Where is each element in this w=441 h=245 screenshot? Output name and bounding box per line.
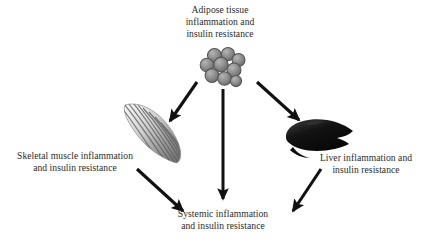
systemic-line-1: Systemic inflammation — [152, 208, 294, 220]
adipose-line-2: inflammation and — [155, 16, 285, 28]
adipose-line-3: insulin resistance — [155, 28, 285, 40]
liver-line-2: insulin resistance — [300, 164, 432, 176]
diagram-canvas: Adipose tissue inflammation and insulin … — [0, 0, 441, 245]
adipose-line-1: Adipose tissue — [155, 4, 285, 16]
systemic-line-2: and insulin resistance — [152, 220, 294, 232]
node-label-skeletal-muscle: Skeletal muscle inflammation and insulin… — [2, 150, 148, 174]
node-label-liver: Liver inflammation and insulin resistanc… — [300, 152, 432, 176]
arrow-muscle-to-systemic — [137, 169, 183, 211]
muscle-line-1: Skeletal muscle inflammation — [2, 150, 148, 162]
node-label-adipose: Adipose tissue inflammation and insulin … — [155, 4, 285, 41]
liver-line-1: Liver inflammation and — [300, 152, 432, 164]
adipocyte-cluster-icon — [197, 46, 249, 90]
node-label-systemic: Systemic inflammation and insulin resist… — [152, 208, 294, 232]
arrow-adipose-to-liver — [257, 82, 299, 120]
muscle-line-2: and insulin resistance — [2, 162, 148, 174]
